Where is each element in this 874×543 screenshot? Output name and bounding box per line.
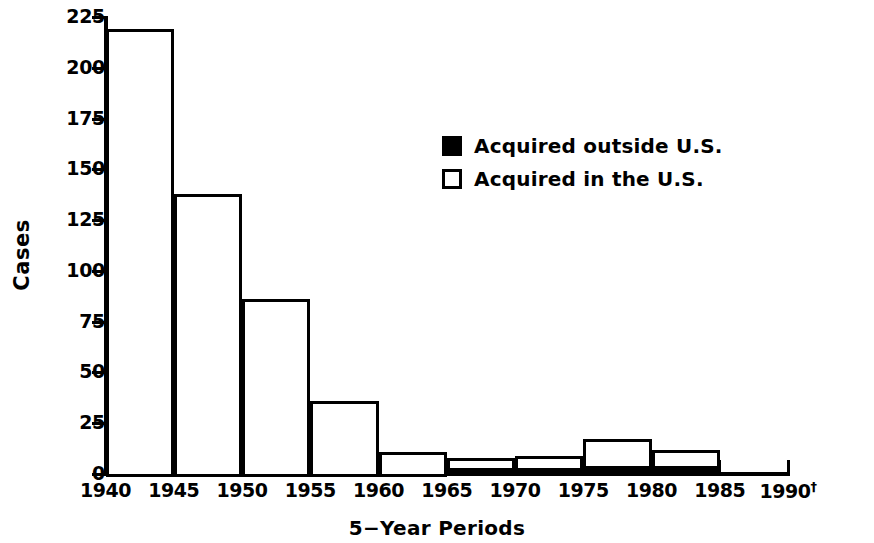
legend-swatch-open — [442, 169, 462, 189]
chart-legend: Acquired outside U.S.Acquired in the U.S… — [442, 131, 723, 197]
y-tick-label: 225 — [53, 5, 105, 27]
y-tick-label: 200 — [53, 56, 105, 78]
legend-item-1: Acquired in the U.S. — [442, 164, 723, 193]
bar-segment-acquired-in-us-1975-1980 — [583, 439, 651, 468]
x-tick-label-1990: 1990† — [743, 479, 833, 502]
y-tick-label: 175 — [53, 107, 105, 129]
y-axis-title: Cases — [10, 215, 34, 295]
x-axis-title: 5−Year Periods — [0, 516, 874, 540]
dagger-footnote-marker: † — [810, 479, 816, 494]
bar-segment-acquired-outside-us-1965-1970 — [447, 468, 515, 474]
bar-segment-acquired-in-us-1960-1965 — [379, 452, 447, 477]
y-tick-label: 50 — [53, 360, 105, 382]
bar-segment-acquired-outside-us-1975-1980 — [583, 466, 651, 474]
legend-label: Acquired in the U.S. — [474, 167, 704, 191]
chart-page: 0255075100125150175200225 19401945195019… — [0, 0, 874, 543]
legend-item-0: Acquired outside U.S. — [442, 131, 723, 160]
legend-label: Acquired outside U.S. — [474, 134, 723, 158]
y-tick-label: 125 — [53, 208, 105, 230]
bar-segment-acquired-outside-us-1980-1985 — [652, 466, 720, 474]
y-tick-label: 150 — [53, 157, 105, 179]
bar-segment-acquired-in-us-1955-1960 — [310, 401, 378, 477]
y-tick-label: 25 — [53, 411, 105, 433]
bar-segment-acquired-in-us-1945-1950 — [174, 194, 242, 477]
bar-segment-acquired-in-us-1940-1945 — [106, 29, 174, 477]
plot-area: 0255075100125150175200225 19401945195019… — [0, 0, 874, 500]
x-tick-mark-1990 — [787, 460, 790, 476]
bar-segment-acquired-outside-us-1970-1975 — [515, 468, 583, 474]
y-tick-label: 75 — [53, 310, 105, 332]
bar-segment-acquired-in-us-1950-1955 — [242, 299, 310, 477]
legend-swatch-filled — [442, 136, 462, 156]
y-tick-label: 100 — [53, 259, 105, 281]
